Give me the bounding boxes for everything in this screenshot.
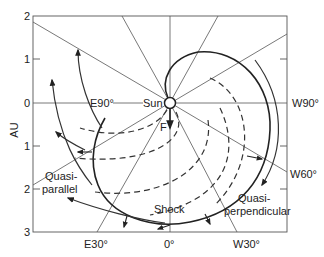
y-axis-label: AU [8,122,20,137]
label-quasi-perpendicular-1: Quasi- [238,192,271,204]
label-w90: W90° [292,97,319,109]
y-tick-0: 0 [24,97,30,109]
label-0deg: 0° [164,238,175,250]
label-w60: W60° [290,168,317,180]
label-sun: Sun [143,97,163,109]
field-label: F [160,121,167,133]
y-tick-3: 3 [24,226,30,238]
shock-geometry-diagram: 2 1 0 1 2 3 AU F [0,0,324,257]
y-tick-2-bottom: 2 [24,183,30,195]
label-quasi-parallel-1: Quasi- [45,170,78,182]
y-tick-2-top: 2 [24,10,30,22]
y-tick-1-bottom: 1 [24,140,30,152]
label-quasi-parallel-2: parallel [42,183,77,195]
label-quasi-perpendicular-2: perpendicular [224,205,291,217]
label-e90: E90° [90,97,114,109]
sun-icon [165,98,176,109]
label-w30: W30° [233,238,260,250]
label-shock: Shock [154,203,185,215]
y-tick-1-top: 1 [24,53,30,65]
label-e30: E30° [84,238,108,250]
